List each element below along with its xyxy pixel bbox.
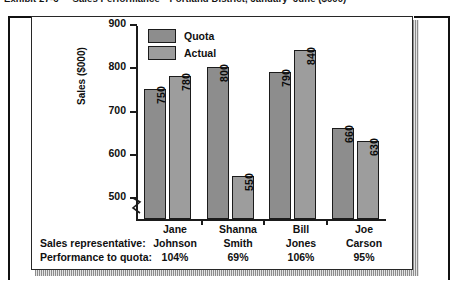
bar-actual: 550 (232, 176, 254, 219)
table-row-label: Sales representative: (40, 237, 138, 249)
bar-group: 750780 (138, 26, 201, 219)
y-tick-label-500: 500 (108, 190, 126, 202)
plot-area: 500600700800900 Quota Actual 75078080055… (136, 26, 386, 221)
table-row-label: Performance to quota: (40, 251, 138, 263)
table-cell: Smith (207, 237, 269, 249)
bar-value-label: 660 (343, 125, 355, 143)
bar-value-label: 790 (280, 69, 292, 87)
bar-quota: 750 (144, 89, 166, 219)
y-tick-600: 600 (130, 154, 137, 156)
bar-group: 660630 (326, 26, 389, 219)
table-row: Performance to quota:104%69%106%95% (40, 251, 406, 265)
table-cell-firstname: Shanna (207, 223, 269, 235)
bars-layer: 750780800550790840660630 (138, 26, 386, 219)
y-tick-700: 700 (130, 111, 137, 113)
bar-actual: 840 (294, 50, 316, 219)
y-tick-label-700: 700 (108, 104, 126, 116)
bar-quota: 800 (207, 67, 229, 219)
y-tick-800: 800 (130, 67, 137, 69)
y-tick-900: 900 (130, 24, 137, 26)
table-cell-firstname: Joe (333, 223, 395, 235)
exhibit-title: Sales Performance—Portland District, Jan… (73, 0, 347, 4)
bar-value-label: 630 (368, 138, 380, 156)
bar-value-label: 840 (305, 47, 317, 65)
table-row: Sales representative:JohnsonSmithJonesCa… (40, 237, 406, 251)
y-tick-label-600: 600 (108, 147, 126, 159)
y-tick-label-900: 900 (108, 17, 126, 29)
table-cell: 69% (207, 251, 269, 263)
table-cell: 106% (270, 251, 332, 263)
table-cell: 104% (144, 251, 206, 263)
table-cell: Carson (333, 237, 395, 249)
bar-group: 790840 (263, 26, 326, 219)
chart-panel: Sales ($000) 500600700800900 Quota Actua… (31, 16, 413, 270)
table-cell-firstname: Bill (270, 223, 332, 235)
bar-quota: 790 (269, 72, 291, 219)
frame-bracket-right (414, 16, 450, 280)
table-cell-firstname: Jane (144, 223, 206, 235)
table-cell: Johnson (144, 237, 206, 249)
bar-group: 800550 (201, 26, 264, 219)
y-tick-label-800: 800 (108, 60, 126, 72)
bar-value-label: 800 (218, 64, 230, 82)
bar-value-label: 750 (155, 86, 167, 104)
table-cell: Jones (270, 237, 332, 249)
exhibit-number: Exhibit 27-6 (4, 0, 59, 4)
bar-actual: 630 (357, 141, 379, 219)
x-axis-line (136, 219, 386, 221)
bar-quota: 660 (332, 128, 354, 219)
bar-actual: 780 (169, 76, 191, 219)
bar-value-label: 780 (180, 73, 192, 91)
exhibit-caption: Exhibit 27-6Sales Performance—Portland D… (4, 0, 454, 7)
y-axis-title: Sales ($000) (76, 47, 87, 105)
bar-value-label: 550 (243, 173, 255, 191)
data-table: JaneShannaBillJoeSales representative:Jo… (40, 223, 406, 265)
table-row: JaneShannaBillJoe (40, 223, 406, 237)
table-cell: 95% (333, 251, 395, 263)
